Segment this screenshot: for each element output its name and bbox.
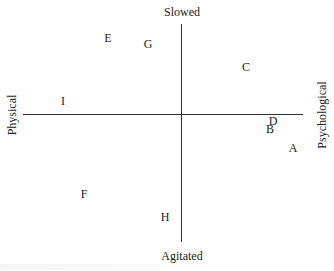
point-label-h: H bbox=[161, 211, 170, 223]
axis-label-physical: Physical bbox=[6, 95, 18, 136]
point-label-a: A bbox=[289, 142, 298, 154]
horizontal-axis bbox=[23, 114, 303, 115]
point-label-i: I bbox=[61, 95, 65, 107]
point-label-g: G bbox=[144, 38, 153, 50]
faded-caption-strip bbox=[0, 264, 160, 270]
point-label-d: D bbox=[269, 115, 278, 127]
axis-label-agitated: Agitated bbox=[161, 250, 202, 262]
point-label-e: E bbox=[104, 32, 111, 44]
point-label-f: F bbox=[81, 188, 88, 200]
axis-label-psychological: Psychological bbox=[316, 81, 328, 148]
vertical-axis bbox=[181, 24, 182, 242]
axis-label-slowed: Slowed bbox=[164, 6, 200, 18]
point-label-c: C bbox=[242, 61, 250, 73]
